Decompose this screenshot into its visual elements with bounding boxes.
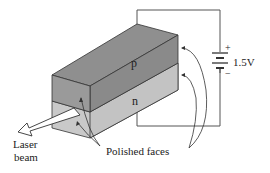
n-region-label: n bbox=[132, 94, 138, 108]
polished-faces-label: Polished faces bbox=[106, 145, 169, 157]
voltage-label: 1.5V bbox=[233, 56, 255, 68]
plus-label: + bbox=[225, 42, 231, 53]
minus-label: − bbox=[225, 68, 231, 79]
laser-diode-diagram: p n + − 1.5V Laser beam Polished faces bbox=[0, 0, 270, 173]
p-region-label: p bbox=[131, 56, 137, 70]
laser-label-line1: Laser bbox=[13, 138, 38, 150]
laser-label-line2: beam bbox=[14, 151, 38, 163]
